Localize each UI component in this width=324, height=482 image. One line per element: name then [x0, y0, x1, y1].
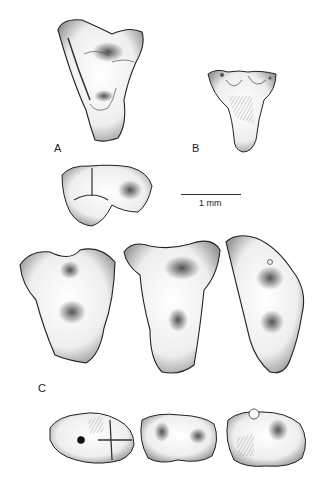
tooth-a: [58, 20, 143, 141]
tooth-c5: [141, 414, 217, 462]
panel-label-b: B: [192, 143, 199, 154]
tooth-a-lateral: [62, 165, 152, 226]
scale-bar: [181, 194, 241, 195]
tooth-c3: [226, 236, 304, 373]
panel-label-c: C: [38, 383, 46, 394]
panel-label-a: A: [54, 143, 61, 154]
tooth-b: [208, 70, 276, 152]
tooth-c6: [227, 409, 306, 466]
tooth-c2: [124, 241, 220, 373]
scale-bar-label: 1 mm: [199, 198, 222, 208]
tooth-c1: [20, 249, 115, 363]
figure-canvas: [0, 0, 324, 482]
tooth-c4: [50, 413, 134, 463]
